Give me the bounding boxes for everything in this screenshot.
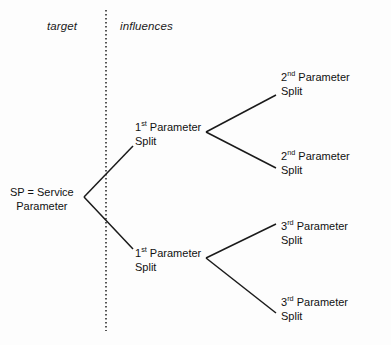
node-level2-d: 3rd Parameter Split — [281, 296, 348, 323]
node-level2-c-line2: Split — [281, 234, 348, 248]
column-header-influences: influences — [120, 20, 173, 32]
ordinal-word: Parameter — [147, 121, 201, 133]
edge-level1-lower-to-level2-d — [206, 258, 276, 313]
node-root: SP = Service Parameter — [10, 186, 74, 213]
ordinal-word: Parameter — [295, 150, 349, 162]
node-level2-b: 2nd Parameter Split — [281, 150, 350, 177]
edge-level1-upper-to-level2-a — [206, 95, 276, 132]
node-level1-upper-line1: 1st Parameter — [135, 121, 201, 135]
edge-level1-lower-to-level2-c — [206, 224, 276, 258]
ordinal-word: Parameter — [294, 220, 348, 232]
ordinal-word: Parameter — [295, 71, 349, 83]
node-level1-lower-line1: 1st Parameter — [135, 247, 201, 261]
node-level2-a-line2: Split — [281, 85, 350, 99]
node-root-line2: Parameter — [10, 200, 74, 214]
node-level1-upper: 1st Parameter Split — [135, 121, 201, 148]
node-level2-c-line1: 3rd Parameter — [281, 220, 348, 234]
node-level2-a: 2nd Parameter Split — [281, 71, 350, 98]
edge-root-to-level1-lower — [84, 197, 133, 249]
ordinal-word: Parameter — [294, 296, 348, 308]
node-level1-upper-line2: Split — [135, 135, 201, 149]
edge-root-to-level1-upper — [84, 146, 133, 197]
edge-level1-upper-to-level2-b — [206, 132, 276, 168]
node-level2-c: 3rd Parameter Split — [281, 220, 348, 247]
ordinal-word: Parameter — [147, 247, 201, 259]
column-header-target: target — [47, 20, 77, 32]
service-parameter-tree-diagram: target influences SP = Service Parameter… — [0, 0, 391, 345]
node-level2-b-line2: Split — [281, 164, 350, 178]
node-level2-d-line2: Split — [281, 310, 348, 324]
node-level2-d-line1: 3rd Parameter — [281, 296, 348, 310]
node-level1-lower: 1st Parameter Split — [135, 247, 201, 274]
node-level2-b-line1: 2nd Parameter — [281, 150, 350, 164]
node-level2-a-line1: 2nd Parameter — [281, 71, 350, 85]
node-level1-lower-line2: Split — [135, 261, 201, 275]
node-root-line1: SP = Service — [10, 186, 74, 200]
